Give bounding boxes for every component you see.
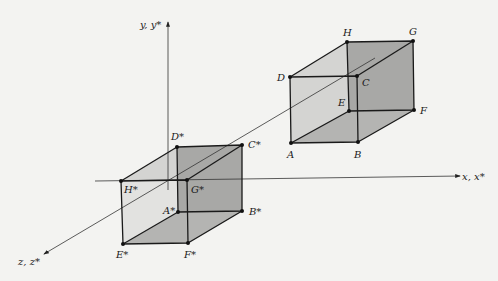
label-H: H	[342, 27, 352, 38]
original-cube	[290, 41, 414, 143]
label-E-star: E*	[115, 249, 128, 260]
label-B: B	[353, 149, 361, 160]
label-G-star: G*	[191, 184, 204, 195]
vertex-B-star	[240, 209, 244, 213]
vertex-G-star	[185, 178, 189, 182]
y-axis-label: y, y*	[139, 19, 161, 30]
vertex-F-star	[186, 241, 190, 245]
vertex-H-star	[119, 179, 123, 183]
label-F-star: F*	[183, 249, 196, 260]
vertex-A-star	[176, 210, 180, 214]
vertex-A	[289, 141, 293, 145]
x-axis-label: x, x*	[462, 171, 485, 182]
label-D: D	[276, 72, 285, 83]
label-A-star: A*	[162, 205, 175, 216]
reflected-cube	[121, 145, 242, 244]
label-E: E	[337, 97, 346, 108]
vertex-E	[347, 109, 351, 113]
label-C-star: C*	[248, 139, 261, 150]
label-B-star: B*	[248, 206, 261, 217]
diagram-svg: y, y* x, x* z, z* A B C D E F G H A* B* …	[0, 0, 498, 281]
vertex-B	[356, 140, 360, 144]
label-A: A	[286, 149, 294, 160]
label-G: G	[409, 26, 417, 37]
vertex-C-star	[240, 143, 244, 147]
label-H-star: H*	[123, 184, 138, 195]
label-D-star: D*	[170, 131, 184, 142]
vertex-H	[345, 40, 349, 44]
vertex-D	[288, 75, 292, 79]
vertex-C	[355, 74, 359, 78]
vertex-F	[412, 108, 416, 112]
figure-canvas: y, y* x, x* z, z* A B C D E F G H A* B* …	[0, 0, 498, 281]
vertex-G	[411, 39, 415, 43]
label-C: C	[362, 77, 370, 88]
vertex-E-star	[121, 242, 125, 246]
z-axis-label: z, z*	[17, 256, 40, 267]
vertex-D-star	[175, 145, 179, 149]
label-F: F	[419, 105, 428, 116]
